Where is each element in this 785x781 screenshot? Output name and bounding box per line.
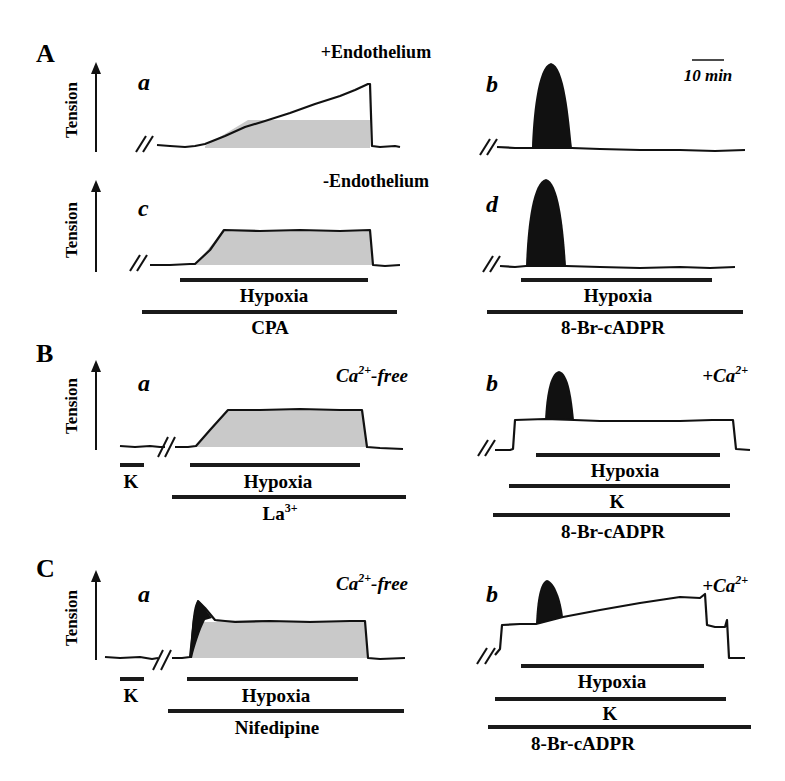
subpanel-letter-a: a [138, 69, 150, 95]
y-axis-label: Tension [62, 201, 81, 258]
condition-minus-endothelium: -Endothelium [323, 171, 429, 191]
tension-axis-C: Tension [62, 570, 101, 660]
panel-letter-C: C [36, 554, 55, 583]
figure-canvas: A +Endothelium 10 min Tension a b -Endot… [0, 0, 785, 781]
tension-axis-B: Tension [62, 360, 101, 450]
y-axis-label: Tension [62, 589, 81, 646]
hypoxia-label: Hypoxia [242, 685, 311, 706]
nifedipine-label: Nifedipine [235, 717, 319, 738]
cpa-label: CPA [251, 317, 289, 338]
k-label: K [603, 703, 618, 724]
condition-ca-free: Ca2+-free [336, 571, 409, 594]
condition-ca-free: Ca2+-free [336, 363, 409, 386]
k-label: K [124, 471, 139, 492]
k-label: K [124, 685, 139, 706]
trace-A-a [136, 84, 400, 152]
panel-letter-A: A [36, 39, 55, 68]
subpanel-letter-b: b [486, 370, 498, 396]
subpanel-letter-a: a [138, 581, 150, 607]
condition-plus-ca: +Ca2+ [702, 363, 748, 386]
subpanel-letter-d: d [486, 191, 499, 217]
trace-B-a [120, 409, 403, 457]
condition-plus-ca: +Ca2+ [702, 573, 748, 596]
8-br-cadpr-label: 8-Br-cADPR [561, 521, 665, 542]
8-br-cadpr-label: 8-Br-cADPR [531, 733, 635, 754]
subpanel-letter-c: c [138, 195, 149, 221]
k-label: K [610, 491, 625, 512]
trace-A-c [130, 230, 400, 271]
tension-axis-A-top: Tension [62, 62, 101, 152]
8-br-cadpr-label: 8-Br-cADPR [561, 317, 665, 338]
arrow-up-icon [91, 180, 101, 192]
condition-plus-endothelium: +Endothelium [321, 42, 431, 62]
subpanel-letter-b: b [486, 581, 498, 607]
trace-C-a [105, 601, 405, 670]
hypoxia-label: Hypoxia [578, 671, 647, 692]
hypoxia-label: Hypoxia [584, 285, 653, 306]
trace-A-d [483, 179, 735, 272]
la-label: La3+ [262, 501, 297, 524]
arrow-up-icon [91, 62, 101, 74]
arrow-up-icon [91, 360, 101, 372]
panel-letter-B: B [36, 339, 53, 368]
subpanel-letter-a: a [138, 370, 150, 396]
hypoxia-label: Hypoxia [244, 471, 313, 492]
hypoxia-label: Hypoxia [591, 460, 660, 481]
y-axis-label: Tension [62, 377, 81, 434]
subpanel-letter-b: b [486, 71, 498, 97]
arrow-up-icon [91, 570, 101, 582]
y-axis-label: Tension [62, 81, 81, 138]
scale-bar-label: 10 min [684, 66, 733, 85]
tension-axis-A-bottom: Tension [62, 180, 101, 272]
hypoxia-label: Hypoxia [240, 285, 309, 306]
